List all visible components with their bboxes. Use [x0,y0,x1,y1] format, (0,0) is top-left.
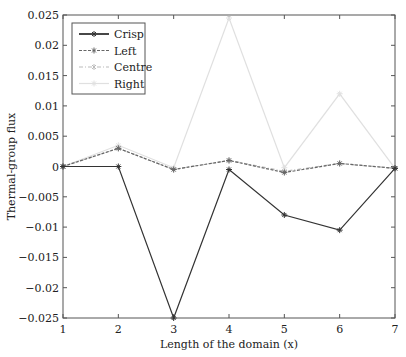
legend-label-left: Left [114,45,137,58]
legend-label-right: Right [114,78,145,91]
y-tick-label: 0.025 [28,9,60,22]
y-tick-label: −0.01 [25,221,59,234]
y-tick-label: −0.025 [18,312,59,325]
line-chart: 12345670.0250.020.0150.010.0050−0.005−0.… [0,0,406,357]
y-tick-label: 0 [52,161,59,174]
x-tick-label: 6 [336,323,343,336]
star-marker-icon [171,315,177,321]
x-tick-label: 1 [60,323,67,336]
series-line-crisp [63,167,395,319]
y-tick-label: 0.01 [35,100,60,113]
star-marker-icon [60,164,66,170]
y-tick-label: −0.015 [18,251,59,264]
x-axis-label: Length of the domain (x) [160,338,298,351]
star-marker-icon [226,15,232,21]
x-tick-label: 3 [170,323,177,336]
star-marker-icon [337,160,343,166]
y-tick-label: −0.005 [18,191,59,204]
x-tick-label: 2 [115,323,122,336]
y-axis-label: Thermal-group flux [5,112,18,220]
y-tick-label: 0.02 [35,39,60,52]
x-tick-label: 7 [392,323,399,336]
y-tick-label: 0.005 [28,130,60,143]
x-tick-label: 4 [226,323,233,336]
star-marker-icon [226,157,232,163]
star-marker-icon [115,164,121,170]
legend-label-centre: Centre [114,61,152,74]
y-tick-label: 0.015 [28,70,60,83]
x-tick-label: 5 [281,323,288,336]
legend-label-crisp: Crisp [114,28,144,41]
y-tick-label: −0.02 [25,282,59,295]
